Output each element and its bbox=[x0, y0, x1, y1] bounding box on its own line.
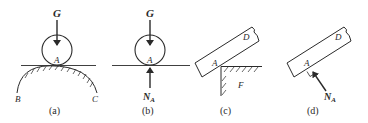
label-C: C bbox=[92, 94, 99, 104]
label-G: G bbox=[53, 7, 61, 19]
curved-surface bbox=[17, 66, 97, 93]
label-A: A bbox=[53, 55, 60, 65]
label-A: A bbox=[211, 58, 218, 68]
label-B: B bbox=[15, 94, 21, 104]
label-G: G bbox=[146, 7, 154, 19]
label-A: A bbox=[303, 58, 310, 68]
surface-hatching bbox=[25, 66, 93, 87]
label-N: NA bbox=[323, 91, 336, 104]
panel-d: D A NA (d) bbox=[287, 27, 351, 117]
label-D: D bbox=[242, 32, 250, 42]
label-F: F bbox=[237, 80, 244, 90]
panel-c: D A F (c) bbox=[195, 27, 262, 117]
caption-b: (b) bbox=[142, 105, 154, 117]
label-A: A bbox=[146, 55, 153, 65]
diagram-canvas: G A B C (a) G A NA (b) D A bbox=[0, 0, 368, 123]
caption-a: (a) bbox=[49, 105, 60, 117]
caption-d: (d) bbox=[307, 105, 319, 117]
caption-c: (c) bbox=[220, 105, 231, 117]
label-N: NA bbox=[142, 91, 155, 104]
panel-b: G A NA (b) bbox=[112, 7, 190, 117]
panel-a: G A B C (a) bbox=[15, 7, 99, 117]
normal-force-arrow bbox=[313, 72, 326, 91]
free-body-diagrams: G A B C (a) G A NA (b) D A bbox=[0, 0, 368, 123]
label-D: D bbox=[334, 32, 342, 42]
